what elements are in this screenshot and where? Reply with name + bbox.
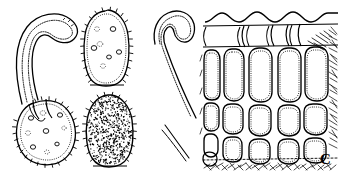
figure-canvas: C	[0, 0, 339, 174]
spore-oil-droplets	[28, 113, 62, 149]
illustration-svg: C	[0, 0, 339, 174]
germ-tube-pore	[29, 104, 45, 121]
panel-tissue-section: C	[200, 12, 338, 170]
detached-germ-tube-inner-wall	[159, 16, 191, 117]
spotted-spore-inner-wall	[87, 14, 126, 83]
spore-body-outline	[16, 101, 75, 165]
spotted-spore-spines	[81, 7, 133, 82]
panel-spore-stippled	[83, 92, 137, 167]
stippled-spore-ornamentation	[87, 96, 133, 165]
germ-tube-tail-stroke-outer	[165, 125, 189, 158]
hatched-shading-left	[200, 55, 202, 134]
germ-tube-inner-wall	[22, 20, 72, 102]
spotted-spore-oil-droplets	[91, 27, 121, 59]
epidermal-cell-ends	[204, 25, 292, 46]
panel-letter-label: C	[320, 151, 331, 167]
parenchyma-row-2	[204, 103, 327, 136]
parenchyma-row-1	[204, 47, 328, 102]
panel-spore-spotted	[81, 7, 133, 86]
germ-tube-outer-wall	[17, 14, 78, 104]
hatched-shading-bottom	[203, 158, 338, 170]
germ-tube-tail-stroke-inner	[162, 130, 186, 161]
epidermis-upper-boundary	[203, 24, 338, 26]
panel-germinating-spore	[13, 14, 80, 168]
cuticle-layer	[205, 12, 338, 22]
spore-spines	[13, 97, 80, 168]
epidermal-cells	[242, 24, 301, 47]
spotted-spore-faint-droplets	[94, 27, 105, 68]
panel-germ-tube	[154, 11, 196, 161]
